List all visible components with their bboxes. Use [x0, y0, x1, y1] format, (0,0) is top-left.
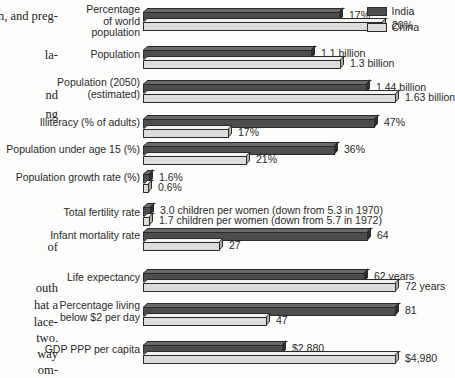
- bar-top-face: [143, 80, 372, 84]
- bar-side-face: [367, 227, 371, 241]
- bar-top-face: [143, 152, 252, 156]
- category-label: Population: [0, 49, 140, 61]
- bar-side-face: [148, 179, 152, 193]
- category-label: Percentage living below $2 per day: [0, 300, 140, 323]
- bar-side-face: [395, 278, 399, 292]
- bar-value-label: 81: [405, 304, 417, 316]
- bar-value-label: 47: [276, 314, 288, 326]
- bar-top-face: [143, 313, 272, 317]
- bar-value-label: $4,980: [405, 352, 437, 364]
- legend-label: India: [392, 5, 415, 17]
- bar-side-face: [395, 302, 399, 316]
- category-label: Total fertility rate: [0, 207, 140, 219]
- bar-top-face: [143, 351, 401, 355]
- category-label: Infant mortality rate: [0, 230, 140, 242]
- bar-side-face: [266, 312, 270, 326]
- category-label: Population growth rate (%): [0, 172, 140, 184]
- category-label: Population (2050) (estimated): [0, 77, 140, 100]
- bar-face: [143, 22, 383, 31]
- bar-value-label: 64: [377, 229, 389, 241]
- bar-side-face: [374, 114, 378, 128]
- bar-value-label: 21%: [256, 153, 277, 165]
- bar-top-face: [143, 303, 401, 307]
- bar-top-face: [143, 46, 317, 50]
- legend-swatch-icon: [367, 23, 387, 32]
- bar-face: [143, 283, 396, 292]
- bar-side-face: [334, 141, 338, 155]
- bar-top-face: [143, 56, 346, 60]
- bar-top-face: [143, 8, 345, 12]
- category-label: Percentage of world population: [0, 4, 140, 39]
- bar-top-face: [143, 228, 373, 232]
- bar-side-face: [149, 212, 153, 226]
- bar-top-face: [143, 238, 225, 242]
- bar-top-face: [143, 269, 370, 273]
- bar-side-face: [246, 151, 250, 165]
- chart-legend: IndiaChina: [367, 5, 419, 37]
- bar-side-face: [219, 237, 223, 251]
- bar-top-face: [143, 341, 288, 345]
- bar-side-face: [395, 89, 399, 103]
- bar-value-label: 1.3 billion: [350, 57, 394, 69]
- bar-face: [143, 242, 220, 251]
- bar-top-face: [143, 18, 388, 22]
- bar-face: [143, 317, 267, 326]
- bar-value-label: 36%: [344, 143, 365, 155]
- bar-value-label: 27: [229, 239, 241, 251]
- bar-top-face: [143, 142, 340, 146]
- bar-value-label: 72 years: [405, 280, 445, 292]
- bar-value-label: 47%: [384, 116, 405, 128]
- category-label: Population under age 15 (%): [0, 144, 140, 156]
- category-label: Life expectancy: [0, 272, 140, 284]
- legend-label: China: [392, 21, 419, 33]
- bar-value-label: 0.6%: [158, 181, 182, 193]
- bar-top-face: [143, 279, 401, 283]
- bar-face: [143, 355, 396, 364]
- bar-face: [143, 156, 247, 165]
- bar-value-label: 17%: [238, 126, 259, 138]
- bar-face: [143, 60, 341, 69]
- bar-value-label: 1.7 children per women (down from 5.7 in…: [159, 214, 382, 226]
- bar-top-face: [143, 90, 401, 94]
- bar-face: [143, 129, 229, 138]
- legend-item-india[interactable]: India: [367, 5, 419, 17]
- bar-face: [143, 94, 396, 103]
- bar-top-face: [143, 125, 234, 129]
- category-label: Illiteracy (% of adults): [0, 117, 140, 129]
- bar-value-label: 1.63 billion: [405, 91, 455, 103]
- bar-side-face: [395, 350, 399, 364]
- bar-top-face: [143, 115, 380, 119]
- legend-item-china[interactable]: China: [367, 21, 419, 33]
- bar-side-face: [340, 55, 344, 69]
- bar-side-face: [228, 124, 232, 138]
- legend-swatch-icon: [367, 7, 387, 16]
- category-label: GDP PPP per capita: [0, 344, 140, 356]
